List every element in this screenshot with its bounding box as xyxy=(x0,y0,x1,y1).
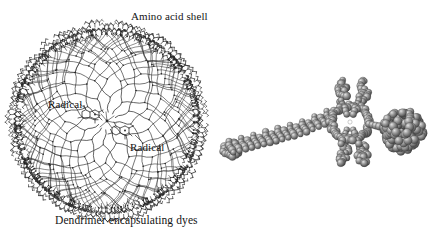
label-radical-2: Radical xyxy=(130,141,164,153)
caption-dendrimer: Dendrimer encapsulating dyes xyxy=(55,214,198,227)
label-amino-acid-shell: Amino acid shell xyxy=(131,10,208,22)
dendrimer-diagram xyxy=(0,0,218,233)
dendrimer-core xyxy=(100,112,116,128)
triad-molecule-model xyxy=(217,0,435,233)
panel-dendrimer: Amino acid shell Radical Radical Dendrim… xyxy=(0,0,218,233)
label-radical-1: Radical xyxy=(48,98,82,110)
fullerene-c60-moiety xyxy=(366,108,428,155)
carotenoid-moiety xyxy=(220,108,335,160)
panel-triad: C P C60 Light-to-charge converter xyxy=(217,0,435,233)
figure-root: Amino acid shell Radical Radical Dendrim… xyxy=(0,0,435,233)
